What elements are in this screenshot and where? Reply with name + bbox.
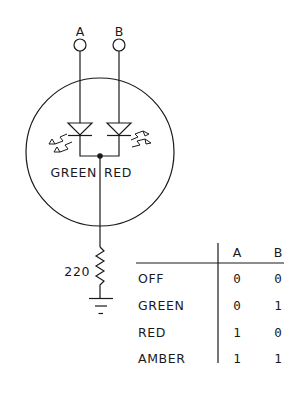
- red-light-arrows-icon: [131, 131, 151, 147]
- red-diode-icon: [107, 123, 131, 135]
- resistor-icon: [96, 247, 104, 298]
- row-value-a: 0: [233, 271, 241, 286]
- led-circuit-diagram: A B GREEN RED 220 A B OFF 0 0 GREEN 0 1 …: [0, 0, 302, 398]
- row-label: RED: [138, 325, 166, 340]
- terminal-b-icon: [113, 39, 125, 51]
- terminal-b-label: B: [115, 24, 124, 39]
- table-header-b: B: [274, 245, 283, 260]
- row-value-a: 0: [233, 298, 241, 313]
- row-value-b: 0: [274, 271, 282, 286]
- junction-dot-icon: [97, 153, 103, 159]
- table-row: AMBER 1 1: [138, 351, 282, 366]
- red-led-label: RED: [104, 165, 132, 180]
- row-value-a: 1: [233, 325, 241, 340]
- green-light-arrows-icon: [49, 134, 72, 152]
- terminal-a-label: A: [76, 24, 85, 39]
- table-header-a: A: [233, 245, 242, 260]
- resistor-value-label: 220: [64, 264, 90, 279]
- row-value-b: 1: [274, 351, 282, 366]
- table-row: RED 1 0: [138, 325, 282, 340]
- table-row: OFF 0 0: [138, 271, 282, 286]
- green-diode-icon: [68, 123, 92, 135]
- row-value-b: 1: [274, 298, 282, 313]
- row-label: OFF: [138, 271, 164, 286]
- row-label: AMBER: [138, 351, 186, 366]
- row-value-b: 0: [274, 325, 282, 340]
- green-led-label: GREEN: [50, 165, 97, 180]
- terminal-a-icon: [74, 39, 86, 51]
- row-label: GREEN: [138, 298, 185, 313]
- common-cathode-wire: [80, 136, 119, 157]
- ground-icon: [89, 299, 113, 314]
- table-row: GREEN 0 1: [138, 298, 282, 313]
- row-value-a: 1: [233, 351, 241, 366]
